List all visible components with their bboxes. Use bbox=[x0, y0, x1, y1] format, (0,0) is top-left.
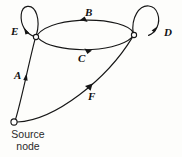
edge-label-F: F bbox=[88, 91, 95, 102]
source-node-caption-line1: Source bbox=[0, 128, 56, 140]
edge-B bbox=[37, 17, 133, 36]
edge-F-path bbox=[17, 38, 132, 122]
edge-C bbox=[39, 37, 133, 54]
edge-B-path bbox=[37, 20, 133, 35]
node-right[interactable] bbox=[131, 32, 136, 37]
edge-label-E: E bbox=[11, 26, 18, 37]
edge-E-path bbox=[21, 6, 38, 36]
edge-label-A: A bbox=[14, 70, 21, 81]
node-left[interactable] bbox=[33, 34, 38, 39]
source-node-caption: Source node bbox=[0, 128, 56, 152]
source-node-caption-line2: node bbox=[0, 140, 56, 152]
edge-E-self-loop bbox=[21, 6, 38, 36]
edge-label-B: B bbox=[85, 7, 92, 18]
edge-label-C: C bbox=[78, 53, 85, 64]
edge-label-D: D bbox=[164, 27, 172, 38]
graph-diagram: E B D C A F Source node bbox=[0, 0, 182, 157]
edge-D-arrowhead bbox=[152, 26, 158, 32]
node-source[interactable] bbox=[11, 119, 17, 125]
edge-C-path bbox=[39, 37, 133, 50]
edge-D-self-loop bbox=[133, 6, 159, 35]
edge-F bbox=[17, 38, 132, 122]
